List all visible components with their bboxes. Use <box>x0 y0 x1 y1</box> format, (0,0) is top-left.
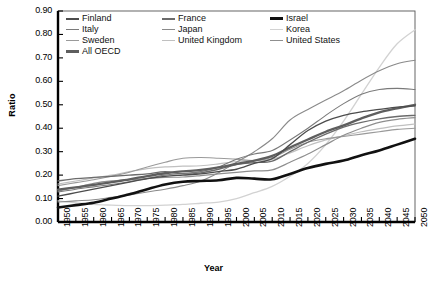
legend-label: Japan <box>178 24 203 35</box>
legend-line-swatch <box>162 40 175 42</box>
legend-label: Israel <box>286 13 308 24</box>
legend-item-all-oecd[interactable]: All OECD <box>66 46 162 57</box>
legend-item-finland[interactable]: Finland <box>66 13 162 24</box>
legend-line-swatch <box>270 40 283 42</box>
legend-line-swatch <box>66 40 79 42</box>
chart-legend: FinlandFranceIsraelItalyJapanKoreaSweden… <box>66 13 370 57</box>
legend-item-korea[interactable]: Korea <box>270 24 370 35</box>
legend-line-swatch <box>66 29 79 30</box>
legend-label: All OECD <box>82 46 121 57</box>
legend-label: Finland <box>82 13 112 24</box>
legend-line-swatch <box>66 18 79 20</box>
legend-item-france[interactable]: France <box>162 13 270 24</box>
legend-label: Sweden <box>82 35 115 46</box>
legend-line-swatch <box>162 18 175 20</box>
legend-label: United States <box>286 35 340 46</box>
legend-item-united-kingdom[interactable]: United Kingdom <box>162 35 270 46</box>
legend-label: Italy <box>82 24 99 35</box>
legend-line-swatch <box>270 17 283 20</box>
legend-item-japan[interactable]: Japan <box>162 24 270 35</box>
legend-line-swatch <box>270 29 283 31</box>
legend-label: Korea <box>286 24 310 35</box>
legend-line-swatch <box>66 50 79 53</box>
legend-item-united-states[interactable]: United States <box>270 35 370 46</box>
legend-item-sweden[interactable]: Sweden <box>66 35 162 46</box>
legend-item-israel[interactable]: Israel <box>270 13 370 24</box>
legend-line-swatch <box>162 29 175 30</box>
legend-label: United Kingdom <box>178 35 242 46</box>
series-line-france <box>58 115 415 181</box>
legend-label: France <box>178 13 206 24</box>
legend-item-italy[interactable]: Italy <box>66 24 162 35</box>
